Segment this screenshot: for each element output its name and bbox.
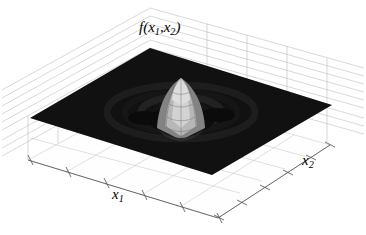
plot-canvas [0,0,366,235]
x1-axis-label-sub: 1 [119,193,124,204]
x1-axis-label: x1 [112,187,124,204]
value-axis-label-close: ) [175,19,180,35]
value-axis-label: f(x1,x2) [139,20,180,37]
x1-axis-label-name: x [112,186,119,202]
x2-axis-label: x2 [302,153,314,170]
surface-plot-figure: f(x1,x2) x1 x2 [0,0,366,235]
x2-axis-label-sub: 2 [309,159,314,170]
x2-axis-label-name: x [302,152,309,168]
value-axis-label-arg1: x [148,19,155,35]
